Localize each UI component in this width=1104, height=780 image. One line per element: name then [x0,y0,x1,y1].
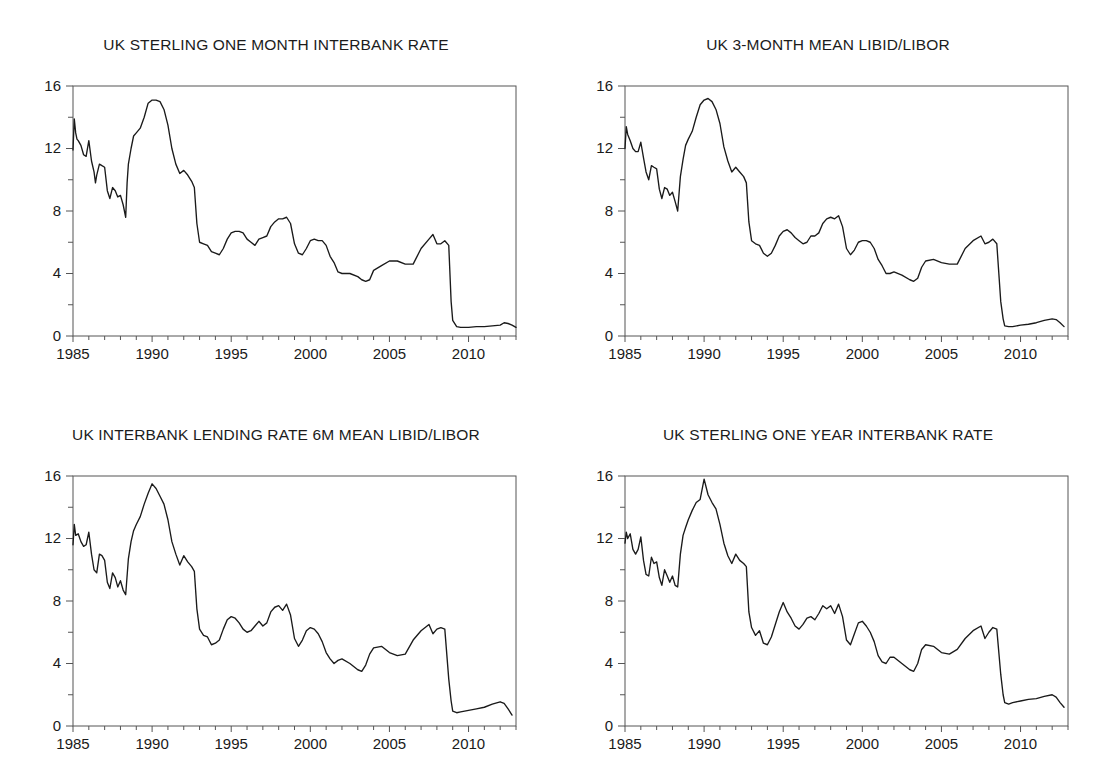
x-axis-tick-label: 2000 [846,345,879,362]
chart-plot-area: 0481216198519901995200020052010 [552,0,1104,390]
data-series-line [73,100,516,327]
x-axis-tick-label: 1985 [608,345,641,362]
y-axis-tick-label: 4 [605,654,613,671]
y-axis-tick-label: 0 [53,717,61,734]
y-axis-tick-label: 16 [44,77,61,94]
x-axis-tick-label: 2010 [452,345,485,362]
figure-container: UK STERLING ONE MONTH INTERBANK RATE0481… [0,0,1104,780]
y-axis-tick-label: 16 [596,77,613,94]
x-axis-tick-label: 1995 [767,345,800,362]
y-axis-tick-label: 12 [596,139,613,156]
y-axis-tick-label: 12 [44,139,61,156]
y-axis-tick-label: 8 [53,592,61,609]
x-axis-tick-label: 2005 [373,345,406,362]
y-axis-tick-label: 0 [605,327,613,344]
x-axis-tick-label: 1995 [215,345,248,362]
chart-plot-area: 0481216198519901995200020052010 [552,390,1104,780]
x-axis-tick-label: 2000 [846,735,879,752]
x-axis-tick-label: 1990 [687,345,720,362]
y-axis-tick-label: 4 [53,264,61,281]
x-axis-tick-label: 1985 [608,735,641,752]
y-axis-tick-label: 8 [605,202,613,219]
y-axis-tick-label: 16 [44,467,61,484]
y-axis-tick-label: 4 [53,654,61,671]
data-series-line [625,479,1064,707]
x-axis-tick-label: 1990 [687,735,720,752]
y-axis-tick-label: 8 [605,592,613,609]
x-axis-tick-label: 2005 [373,735,406,752]
y-axis-tick-label: 0 [605,717,613,734]
plot-frame [73,86,516,336]
y-axis-tick-label: 16 [596,467,613,484]
x-axis-tick-label: 2010 [1004,735,1037,752]
x-axis-tick-label: 1995 [215,735,248,752]
x-axis-tick-label: 2000 [294,735,327,752]
chart-panel-4: UK STERLING ONE YEAR INTERBANK RATE04812… [552,390,1104,780]
y-axis-tick-label: 12 [44,529,61,546]
y-axis-tick-label: 8 [53,202,61,219]
x-axis-tick-label: 1995 [767,735,800,752]
x-axis-tick-label: 1990 [135,345,168,362]
y-axis-tick-label: 4 [605,264,613,281]
x-axis-tick-label: 2000 [294,345,327,362]
x-axis-tick-label: 1985 [56,345,89,362]
data-series-line [625,99,1064,327]
chart-panel-3: UK INTERBANK LENDING RATE 6M MEAN LIBID/… [0,390,552,780]
x-axis-tick-label: 1985 [56,735,89,752]
plot-frame [625,86,1068,336]
chart-plot-area: 0481216198519901995200020052010 [0,0,552,390]
x-axis-tick-label: 2010 [1004,345,1037,362]
x-axis-tick-label: 2010 [452,735,485,752]
y-axis-tick-label: 12 [596,529,613,546]
y-axis-tick-label: 0 [53,327,61,344]
x-axis-tick-label: 2005 [925,735,958,752]
chart-panel-2: UK 3-MONTH MEAN LIBID/LIBOR0481216198519… [552,0,1104,390]
x-axis-tick-label: 2005 [925,345,958,362]
data-series-line [73,484,512,715]
chart-plot-area: 0481216198519901995200020052010 [0,390,552,780]
chart-panel-1: UK STERLING ONE MONTH INTERBANK RATE0481… [0,0,552,390]
x-axis-tick-label: 1990 [135,735,168,752]
